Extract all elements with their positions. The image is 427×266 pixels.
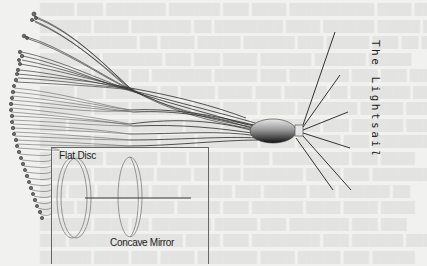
diverging-rays xyxy=(296,32,351,190)
flat-disc-label: Flat Disc xyxy=(59,150,96,161)
fiber-bundle xyxy=(16,16,258,130)
sail-fragments xyxy=(9,12,43,220)
concave-mirror-label: Concave Mirror xyxy=(110,237,174,248)
title-text: The Lightsai xyxy=(369,40,382,149)
central-pod xyxy=(250,119,296,143)
pod-collar xyxy=(295,125,303,136)
diagram-title: The Lightsail xyxy=(369,40,382,159)
title-tail: l xyxy=(369,149,382,158)
